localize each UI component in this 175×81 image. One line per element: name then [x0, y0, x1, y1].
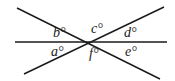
angle-label-e: e°: [125, 44, 137, 59]
angle-diagram: a° b° c° d° e° f°: [0, 0, 175, 81]
ascending-line: [24, 7, 164, 74]
angle-label-c: c°: [91, 21, 103, 36]
angle-label-f: f°: [89, 46, 99, 61]
angle-label-b: b°: [53, 25, 66, 40]
angle-label-a: a°: [51, 44, 64, 59]
angle-label-d: d°: [124, 25, 137, 40]
